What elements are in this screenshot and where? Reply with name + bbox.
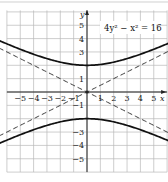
y-axis-label: y xyxy=(79,10,85,19)
x-tick-label: −5 xyxy=(14,94,26,103)
y-tick-label: −1 xyxy=(72,101,84,110)
x-tick-label: 5 xyxy=(151,94,156,103)
x-tick-label: 4 xyxy=(138,94,143,103)
x-tick-label: 1 xyxy=(98,94,103,103)
equation-label: 4y² − x² = 16 xyxy=(104,23,162,33)
hyperbola-plot: −5−4−3−2−1123455431−1−3−4−5 4y² − x² = 1… xyxy=(0,0,168,182)
x-tick-label: −4 xyxy=(28,94,40,103)
y-tick-label: 4 xyxy=(79,35,84,44)
x-tick-label: 3 xyxy=(125,94,130,103)
axes xyxy=(7,10,167,172)
y-tick-label: −4 xyxy=(72,141,84,150)
y-tick-label: 5 xyxy=(79,21,84,30)
x-tick-label: −2 xyxy=(54,94,66,103)
hyperbola-branch xyxy=(0,40,168,65)
hyperbola-branch xyxy=(0,119,168,144)
x-axis-label: x xyxy=(160,94,165,103)
x-tick-label: −3 xyxy=(41,94,53,103)
y-tick-label: −5 xyxy=(72,155,84,164)
y-tick-label: 3 xyxy=(79,48,84,57)
y-axis-arrow-icon xyxy=(85,10,89,15)
x-tick-label: 2 xyxy=(111,94,116,103)
y-tick-label: −3 xyxy=(72,128,84,137)
equation-label-group: 4y² − x² = 16 xyxy=(100,21,162,34)
y-tick-label: 1 xyxy=(79,75,84,84)
